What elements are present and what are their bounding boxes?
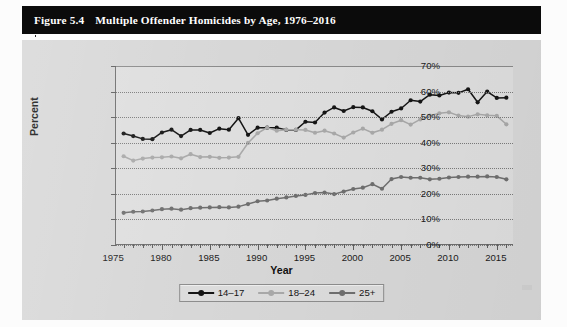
data-point <box>504 177 508 181</box>
x-axis-ticklabel: 1980 <box>150 252 171 263</box>
x-axis-tick-major <box>353 244 354 250</box>
data-point <box>476 100 480 104</box>
data-point <box>322 129 326 133</box>
y-axis-tick <box>111 245 116 246</box>
gridline <box>116 143 513 144</box>
x-axis-tick-major <box>162 244 163 250</box>
data-point <box>399 106 403 110</box>
data-point <box>217 156 221 160</box>
x-axis-tick-minor <box>325 244 326 248</box>
data-point <box>389 177 393 181</box>
y-axis-ticklabel: 60% <box>400 86 440 97</box>
data-point <box>389 110 393 114</box>
x-axis-tick-minor <box>459 244 460 248</box>
x-axis-tick-minor <box>143 244 144 248</box>
x-axis-tick-minor <box>363 244 364 248</box>
data-point <box>361 127 365 131</box>
chart-legend: 14–1718–2425+ <box>179 284 385 302</box>
figure-title-text: Multiple Offender Homicides by Age, 1976… <box>95 14 336 26</box>
data-point <box>351 130 355 134</box>
data-point <box>256 199 260 203</box>
data-point <box>150 155 154 159</box>
gridline <box>116 92 513 93</box>
x-axis-tick-minor <box>334 244 335 248</box>
data-point <box>342 109 346 113</box>
figure-title-banner: Figure 5.4Multiple Offender Homicides by… <box>22 6 541 34</box>
data-point <box>456 175 460 179</box>
figure-container: Figure 5.4Multiple Offender Homicides by… <box>0 0 567 327</box>
data-point <box>198 155 202 159</box>
legend-item[interactable]: 14–17 <box>188 287 245 298</box>
data-point <box>227 205 231 209</box>
data-point <box>160 207 164 211</box>
series-lines <box>116 66 514 245</box>
data-point <box>418 176 422 180</box>
x-axis-tick-minor <box>229 244 230 248</box>
y-axis-ticklabel: 40% <box>400 137 440 148</box>
gridline <box>116 117 513 118</box>
legend-item[interactable]: 25+ <box>329 287 375 298</box>
data-point <box>179 208 183 212</box>
x-axis-tick-minor <box>372 244 373 248</box>
x-axis-ticklabel: 2005 <box>389 252 410 263</box>
y-axis-tick <box>111 66 116 67</box>
x-axis-tick-minor <box>200 244 201 248</box>
data-point <box>380 128 384 132</box>
data-point <box>322 110 326 114</box>
y-axis-tick <box>111 143 116 144</box>
y-axis-ticklabel: 10% <box>400 213 440 224</box>
x-axis-title: Year <box>22 264 541 276</box>
data-point <box>227 155 231 159</box>
y-axis-ticklabel: 50% <box>400 111 440 122</box>
x-axis-tick-major <box>210 244 211 250</box>
x-axis-tick-major <box>258 244 259 250</box>
x-axis-tick-minor <box>382 244 383 248</box>
x-axis-tick-major <box>449 244 450 250</box>
y-axis-ticklabel: 20% <box>400 188 440 199</box>
data-point <box>141 137 145 141</box>
data-point <box>275 197 279 201</box>
data-point <box>485 174 489 178</box>
data-point <box>169 207 173 211</box>
x-axis-ticklabel: 1995 <box>294 252 315 263</box>
data-point <box>380 187 384 191</box>
x-axis-tick-major <box>497 244 498 250</box>
y-axis-tick <box>111 168 116 169</box>
scan-artifact-2 <box>522 285 532 290</box>
x-axis-ticklabel: 1975 <box>102 252 123 263</box>
data-point <box>428 177 432 181</box>
data-point <box>227 128 231 132</box>
data-point <box>409 176 413 180</box>
data-point <box>313 131 317 135</box>
data-point <box>504 96 508 100</box>
data-point <box>294 128 298 132</box>
data-point <box>246 202 250 206</box>
data-point <box>265 198 269 202</box>
y-axis-tick <box>111 117 116 118</box>
x-axis-tick-minor <box>392 244 393 248</box>
data-point <box>189 206 193 210</box>
data-point <box>169 154 173 158</box>
data-point <box>447 110 451 114</box>
data-point <box>131 134 135 138</box>
data-point <box>150 208 154 212</box>
legend-label: 14–17 <box>218 287 245 298</box>
x-axis-tick-minor <box>191 244 192 248</box>
data-point <box>122 211 126 215</box>
x-axis-tick-minor <box>152 244 153 248</box>
x-axis-tick-minor <box>506 244 507 248</box>
x-axis-tick-major <box>305 244 306 250</box>
x-axis-tick-minor <box>277 244 278 248</box>
x-axis-ticklabel: 2000 <box>342 252 363 263</box>
y-axis-ticklabel: 70% <box>400 60 440 71</box>
scan-artifact <box>35 35 36 37</box>
gridline <box>116 168 513 169</box>
data-point <box>122 131 126 135</box>
figure-title: Figure 5.4Multiple Offender Homicides by… <box>22 14 336 26</box>
data-point <box>303 120 307 124</box>
legend-item[interactable]: 18–24 <box>258 287 315 298</box>
data-point <box>437 177 441 181</box>
data-point <box>476 112 480 116</box>
plot-area <box>115 66 513 245</box>
data-point <box>284 128 288 132</box>
